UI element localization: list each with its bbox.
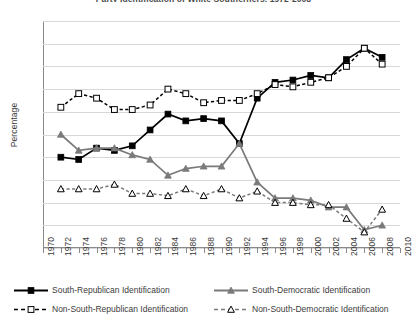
- data-point-marker: [112, 107, 118, 113]
- data-point-marker: [147, 127, 153, 133]
- data-point-marker: [201, 100, 207, 106]
- data-point-marker: [290, 77, 296, 83]
- data-point-marker: [236, 98, 242, 104]
- data-point-marker: [93, 186, 100, 192]
- data-point-marker: [111, 181, 118, 187]
- x-tick: [293, 248, 294, 253]
- data-point-marker: [129, 107, 135, 113]
- data-point-marker: [272, 82, 278, 88]
- chart-title: Party Identification of White Southerner…: [0, 0, 407, 2]
- data-point-marker: [28, 307, 34, 313]
- legend-item[interactable]: South-Democratic Identification: [214, 285, 370, 296]
- data-point-marker: [58, 104, 64, 110]
- data-point-marker: [165, 86, 171, 92]
- data-point-marker: [379, 54, 385, 60]
- plot-area: 0102030405060708090100 19701972197419761…: [43, 21, 400, 248]
- x-tick: [97, 248, 98, 253]
- data-point-marker: [165, 111, 171, 117]
- x-tick-label: 2010: [404, 237, 413, 256]
- data-point-marker: [75, 186, 82, 192]
- data-point-marker: [129, 190, 136, 196]
- x-tick: [79, 248, 80, 253]
- data-point-marker: [326, 75, 332, 81]
- data-point-marker: [94, 95, 100, 101]
- data-point-marker: [219, 98, 225, 104]
- data-point-marker: [290, 84, 296, 90]
- y-axis-title: Percentage: [9, 80, 19, 170]
- data-point-marker: [183, 91, 189, 97]
- data-point-marker: [129, 143, 135, 149]
- data-point-marker: [219, 118, 225, 124]
- legend-label: South-Democratic Identification: [252, 286, 370, 295]
- x-tick: [168, 248, 169, 253]
- series-layer: [43, 21, 400, 248]
- x-tick: [222, 248, 223, 253]
- data-point-marker: [344, 64, 350, 70]
- data-point-marker: [325, 201, 332, 207]
- x-tick: [400, 248, 401, 253]
- x-tick: [43, 248, 44, 253]
- data-point-marker: [57, 131, 64, 137]
- data-point-marker: [344, 57, 350, 63]
- data-point-marker: [254, 91, 260, 97]
- x-tick: [239, 248, 240, 253]
- data-point-marker: [308, 79, 314, 85]
- data-point-marker: [236, 195, 243, 201]
- x-tick: [114, 248, 115, 253]
- x-tick: [150, 248, 151, 253]
- data-point-marker: [183, 118, 189, 124]
- series-2: [57, 131, 385, 233]
- series-3: [58, 45, 385, 112]
- series-1: [58, 45, 385, 162]
- x-tick: [364, 248, 365, 253]
- data-point-marker: [379, 206, 386, 212]
- data-point-marker: [76, 91, 82, 97]
- data-point-marker: [343, 215, 350, 221]
- x-tick: [132, 248, 133, 253]
- data-point-marker: [254, 188, 261, 194]
- data-point-marker: [218, 186, 225, 192]
- x-tick: [382, 248, 383, 253]
- x-tick: [275, 248, 276, 253]
- legend-swatch: [214, 304, 248, 315]
- x-tick: [186, 248, 187, 253]
- data-point-marker: [28, 288, 34, 294]
- legend-item[interactable]: South-Republican Identification: [14, 285, 170, 296]
- legend-swatch: [14, 304, 48, 315]
- data-point-marker: [361, 45, 367, 51]
- series-line: [61, 48, 382, 159]
- legend-swatch: [14, 285, 48, 296]
- legend-item[interactable]: Non-South-Democratic Identification: [214, 304, 389, 315]
- x-tick: [257, 248, 258, 253]
- data-point-marker: [182, 186, 189, 192]
- x-tick: [204, 248, 205, 253]
- legend-item[interactable]: Non-South-Republican Identification: [14, 304, 188, 315]
- data-point-marker: [379, 61, 385, 67]
- x-tick: [311, 248, 312, 253]
- x-tick: [329, 248, 330, 253]
- data-point-marker: [379, 222, 386, 228]
- legend-label: Non-South-Republican Identification: [52, 305, 188, 314]
- chart-legend: South-Republican IdentificationSouth-Dem…: [0, 283, 407, 321]
- data-point-marker: [58, 154, 64, 160]
- data-point-marker: [76, 157, 82, 163]
- legend-label: South-Republican Identification: [52, 286, 170, 295]
- data-point-marker: [254, 179, 261, 185]
- data-point-marker: [147, 102, 153, 108]
- legend-label: Non-South-Democratic Identification: [252, 305, 389, 314]
- x-tick: [346, 248, 347, 253]
- data-point-marker: [308, 73, 314, 79]
- data-point-marker: [201, 116, 207, 122]
- series-line: [61, 135, 382, 230]
- x-tick: [61, 248, 62, 253]
- legend-swatch: [214, 285, 248, 296]
